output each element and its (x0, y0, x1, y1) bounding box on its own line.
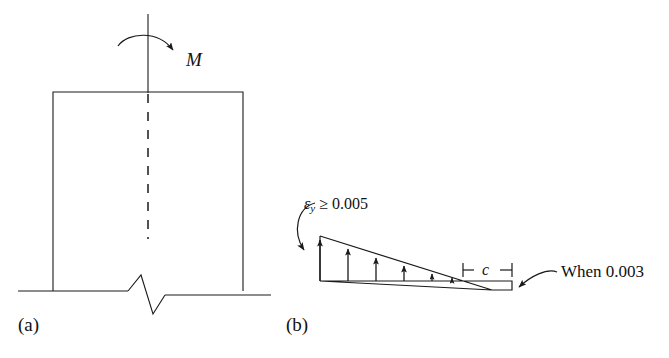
break-zigzag-symbol (128, 275, 165, 314)
figure-drawing-canvas (0, 0, 669, 358)
strain-value: 0.005 (332, 195, 368, 212)
tension-strain-label: εy ≥ 0.005 (304, 196, 368, 214)
strain-relation-symbol: ≥ (319, 195, 328, 212)
compression-strain-note: When 0.003 (561, 263, 644, 280)
compression-note-leader-arrow (519, 271, 557, 287)
figure-container: M (a) (b) εy ≥ 0.005 c When 0.003 (0, 0, 669, 358)
panel-a-label: (a) (18, 315, 39, 334)
panel-b-label: (b) (286, 315, 308, 334)
c-dimension-label: c (482, 262, 489, 278)
moment-label: M (186, 50, 202, 69)
moment-curved-arrow (118, 35, 173, 50)
epsilon-subscript: y (310, 202, 315, 214)
